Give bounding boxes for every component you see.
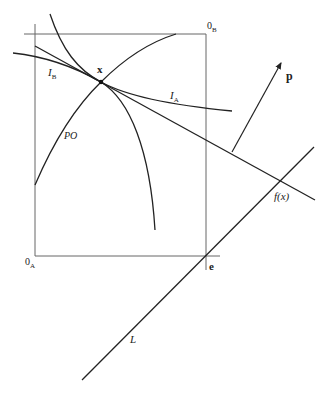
origin-b-label: 0B — [207, 20, 217, 34]
origin-a-label: 0A — [25, 256, 35, 270]
indifference-a-label: IA — [169, 89, 179, 104]
price-vector-arrow — [232, 63, 281, 152]
point-x-label: x — [97, 63, 103, 75]
pareto-optimal-label: PO — [63, 130, 77, 141]
line-l — [82, 147, 314, 380]
point-x-marker — [99, 80, 103, 84]
edgeworth-box-diagram: 0A 0B x IB IA PO p f(x) e L — [0, 0, 328, 395]
indifference-b-label: IB — [47, 66, 57, 81]
budget-line — [35, 46, 315, 200]
indifference-curve-b-steep — [50, 14, 155, 230]
line-l-label: L — [129, 333, 136, 345]
indifference-curve-a — [13, 53, 232, 111]
f-of-x-label: f(x) — [274, 190, 290, 203]
price-vector-label: p — [286, 69, 293, 83]
pareto-optimal-curve — [35, 34, 176, 185]
endowment-label: e — [209, 260, 214, 272]
